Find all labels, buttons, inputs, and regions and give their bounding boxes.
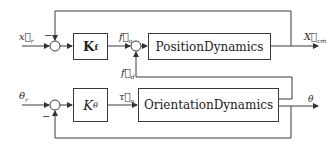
kf-label: K — [83, 39, 94, 54]
f-d-label: f⃗d — [121, 68, 135, 80]
theta-output-label: θ — [308, 95, 313, 104]
position-dynamics-label: PositionDynamics — [156, 40, 264, 54]
sum-junction-position — [50, 41, 60, 51]
kf-gain-block: Kf — [73, 33, 108, 60]
orientation-dynamics-block: OrientationDynamics — [138, 88, 279, 122]
sum-junction-orientation — [50, 100, 60, 110]
tau-o-label: τ⃗o — [119, 92, 134, 104]
orientation-dynamics-label: OrientationDynamics — [144, 98, 273, 112]
bottom-minus-sign: − — [42, 112, 50, 122]
theta-ref-label: θr — [19, 91, 28, 103]
x-ref-label: x⃗r — [19, 32, 34, 44]
ktheta-subscript: θ — [93, 101, 98, 110]
position-dynamics-block: PositionDynamics — [148, 33, 271, 60]
x-cm-label: X⃗cm — [304, 32, 326, 44]
sum-junction-force — [131, 41, 141, 51]
top-minus-sign: − — [44, 31, 52, 41]
f-o-label: f⃗o — [119, 32, 132, 44]
kf-subscript: f — [94, 42, 97, 52]
ktheta-label: K — [83, 98, 93, 113]
ktheta-gain-block: Kθ — [73, 88, 108, 122]
diagram-wires — [0, 0, 335, 158]
